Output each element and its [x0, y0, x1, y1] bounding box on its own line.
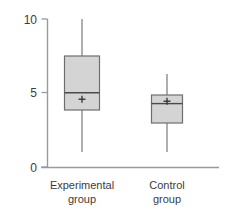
box-experimental-group	[65, 19, 100, 152]
category-label-experimental-line1: Experimental	[50, 179, 114, 191]
boxplot-figure: 10 5 0	[0, 0, 228, 216]
box-control-group	[152, 74, 183, 152]
y-tick-label-5: 5	[30, 86, 37, 100]
boxplot-svg: 10 5 0	[0, 0, 228, 216]
y-tick-label-10: 10	[24, 13, 38, 27]
y-tick-label-0: 0	[30, 161, 37, 175]
category-label-experimental-line2: group	[68, 193, 96, 205]
category-label-control-line1: Control	[149, 179, 184, 191]
category-label-control-line2: group	[153, 193, 181, 205]
